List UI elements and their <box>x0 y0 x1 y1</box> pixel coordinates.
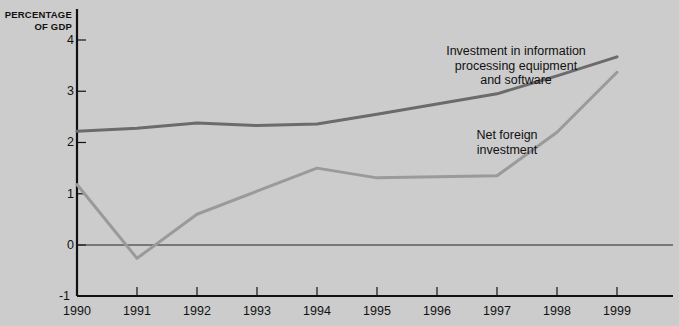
x-tick-label-1993: 1993 <box>227 305 287 318</box>
x-tick-label-1990: 1990 <box>47 305 107 318</box>
chart-container: PERCENTAGEOF GDP 4 3 2 1 0 -1 1990 1991 … <box>0 0 679 326</box>
y-tick-label-minus1: -1 <box>44 290 70 303</box>
x-tick-label-1997: 1997 <box>467 305 527 318</box>
y-axis-title-line1: PERCENTAGE <box>5 9 72 20</box>
y-tick-label-1: 1 <box>48 188 74 201</box>
y-tick-label-4: 4 <box>48 34 74 47</box>
series-line-net-foreign-investment <box>77 72 617 258</box>
x-tick-label-1994: 1994 <box>287 305 347 318</box>
annotation-net-foreign-label: Net foreign investment <box>432 128 582 157</box>
x-tick-label-1998: 1998 <box>527 305 587 318</box>
y-tick-label-3: 3 <box>48 85 74 98</box>
y-axis-title: PERCENTAGEOF GDP <box>4 9 72 32</box>
y-axis-title-line2: OF GDP <box>34 21 72 32</box>
x-axis-ticks <box>137 287 617 296</box>
x-tick-label-1992: 1992 <box>167 305 227 318</box>
x-tick-label-1999: 1999 <box>587 305 647 318</box>
y-tick-label-0: 0 <box>48 239 74 252</box>
annotation-investment-label: Investment in information processing equ… <box>404 44 628 88</box>
x-tick-label-1995: 1995 <box>347 305 407 318</box>
x-tick-label-1991: 1991 <box>107 305 167 318</box>
x-tick-label-1996: 1996 <box>407 305 467 318</box>
y-tick-label-2: 2 <box>48 136 74 149</box>
y-axis-ticks <box>77 40 86 245</box>
